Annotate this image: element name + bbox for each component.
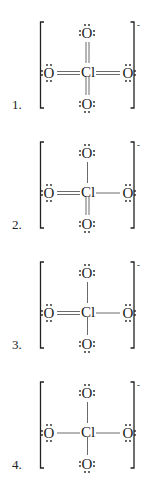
lone-pair-dots bbox=[79, 465, 81, 467]
lone-pair-dots bbox=[93, 461, 95, 463]
lone-pair-dots bbox=[125, 440, 127, 442]
lone-pair-dots bbox=[50, 64, 52, 66]
lone-pair-dots bbox=[79, 270, 81, 272]
lone-pair-dots bbox=[93, 150, 95, 152]
oxygen-atom-bottom: O bbox=[82, 456, 93, 472]
lone-pair-dots bbox=[129, 320, 131, 322]
lone-pair-dots bbox=[84, 144, 86, 146]
lewis-structure-3: 3.-ClOOOO bbox=[0, 242, 155, 362]
central-atom-cl: Cl bbox=[81, 304, 95, 320]
lone-pair-dots bbox=[41, 190, 43, 192]
lone-pair-dots bbox=[50, 184, 52, 186]
oxygen-atom-left: O bbox=[44, 425, 55, 441]
lone-pair-dots bbox=[79, 274, 81, 276]
lone-pair-dots bbox=[41, 430, 43, 432]
oxygen-atom-right: O bbox=[123, 185, 134, 201]
oxygen-atom-left: O bbox=[44, 305, 55, 321]
oxygen-atom-bottom: O bbox=[82, 336, 93, 352]
lone-pair-dots bbox=[84, 471, 86, 473]
lone-pair-dots bbox=[134, 70, 136, 72]
lone-pair-dots bbox=[134, 74, 136, 76]
lone-pair-dots bbox=[84, 111, 86, 113]
lone-pair-dots bbox=[79, 345, 81, 347]
lone-pair-dots bbox=[46, 424, 48, 426]
lone-pair-dots bbox=[125, 304, 127, 306]
lone-pair-dots bbox=[125, 320, 127, 322]
structure-diagram: -ClOOOO bbox=[0, 362, 155, 482]
lone-pair-dots bbox=[79, 30, 81, 32]
structure-diagram: -ClOOOO bbox=[0, 242, 155, 362]
lone-pair-dots bbox=[134, 434, 136, 436]
ion-charge: - bbox=[137, 140, 140, 150]
lewis-structure-2: 2.-ClOOOO bbox=[0, 122, 155, 242]
oxygen-atom-top: O bbox=[82, 145, 93, 161]
lone-pair-dots bbox=[88, 384, 90, 386]
lone-pair-dots bbox=[134, 194, 136, 196]
central-atom-cl: Cl bbox=[81, 184, 95, 200]
lone-pair-dots bbox=[93, 394, 95, 396]
lone-pair-dots bbox=[79, 105, 81, 107]
lone-pair-dots bbox=[134, 314, 136, 316]
lone-pair-dots bbox=[79, 221, 81, 223]
lone-pair-dots bbox=[93, 30, 95, 32]
lone-pair-dots bbox=[134, 310, 136, 312]
lone-pair-dots bbox=[79, 34, 81, 36]
lone-pair-dots bbox=[125, 424, 127, 426]
ion-charge: - bbox=[137, 260, 140, 270]
lone-pair-dots bbox=[46, 80, 48, 82]
lone-pair-dots bbox=[88, 144, 90, 146]
lone-pair-dots bbox=[93, 34, 95, 36]
lone-pair-dots bbox=[129, 424, 131, 426]
lone-pair-dots bbox=[50, 304, 52, 306]
lewis-structure-4: 4.-ClOOOO bbox=[0, 362, 155, 482]
lone-pair-dots bbox=[46, 440, 48, 442]
lone-pair-dots bbox=[41, 70, 43, 72]
lone-pair-dots bbox=[41, 74, 43, 76]
lone-pair-dots bbox=[88, 351, 90, 353]
lone-pair-dots bbox=[88, 111, 90, 113]
lone-pair-dots bbox=[41, 314, 43, 316]
lone-pair-dots bbox=[93, 221, 95, 223]
lone-pair-dots bbox=[129, 184, 131, 186]
lone-pair-dots bbox=[46, 304, 48, 306]
lone-pair-dots bbox=[134, 430, 136, 432]
lone-pair-dots bbox=[50, 320, 52, 322]
lone-pair-dots bbox=[93, 270, 95, 272]
lone-pair-dots bbox=[129, 64, 131, 66]
lone-pair-dots bbox=[79, 461, 81, 463]
lone-pair-dots bbox=[88, 24, 90, 26]
lone-pair-dots bbox=[50, 200, 52, 202]
lone-pair-dots bbox=[79, 390, 81, 392]
lone-pair-dots bbox=[129, 440, 131, 442]
lone-pair-dots bbox=[93, 101, 95, 103]
lone-pair-dots bbox=[46, 64, 48, 66]
lone-pair-dots bbox=[129, 80, 131, 82]
lone-pair-dots bbox=[84, 24, 86, 26]
lone-pair-dots bbox=[79, 394, 81, 396]
oxygen-atom-top: O bbox=[82, 265, 93, 281]
lone-pair-dots bbox=[41, 194, 43, 196]
oxygen-atom-left: O bbox=[44, 185, 55, 201]
lone-pair-dots bbox=[93, 105, 95, 107]
lone-pair-dots bbox=[50, 440, 52, 442]
lone-pair-dots bbox=[125, 80, 127, 82]
central-atom-cl: Cl bbox=[81, 64, 95, 80]
central-atom-cl: Cl bbox=[81, 424, 95, 440]
lone-pair-dots bbox=[84, 384, 86, 386]
lewis-structure-1: 1.-ClOOOO bbox=[0, 2, 155, 122]
lone-pair-dots bbox=[93, 154, 95, 156]
lone-pair-dots bbox=[84, 264, 86, 266]
oxygen-atom-right: O bbox=[123, 425, 134, 441]
lone-pair-dots bbox=[93, 341, 95, 343]
oxygen-atom-top: O bbox=[82, 25, 93, 41]
structure-diagram: -ClOOOO bbox=[0, 122, 155, 242]
oxygen-atom-left: O bbox=[44, 65, 55, 81]
ion-charge: - bbox=[137, 20, 140, 30]
oxygen-atom-bottom: O bbox=[82, 216, 93, 232]
oxygen-atom-right: O bbox=[123, 305, 134, 321]
lone-pair-dots bbox=[125, 64, 127, 66]
lone-pair-dots bbox=[125, 184, 127, 186]
lone-pair-dots bbox=[84, 351, 86, 353]
oxygen-atom-bottom: O bbox=[82, 96, 93, 112]
lone-pair-dots bbox=[46, 200, 48, 202]
